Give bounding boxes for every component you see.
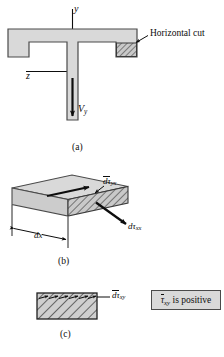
dtau-yx-label: dτyx <box>103 177 116 187</box>
dtau-xy-symbol: dτ <box>112 291 120 300</box>
caption-a: (a) <box>72 143 83 153</box>
shear-force-subscript: y <box>84 108 87 116</box>
dtau-xy-label: dτxy <box>112 291 125 301</box>
dtau-xx-label: dτxx <box>128 222 141 232</box>
figure-shear-flow-diagram: y z Vy Horizontal cut (a) dτyx dτxx dx (… <box>0 0 224 357</box>
dtau-xx-symbol: dτ <box>128 221 136 231</box>
positive-convention-phrase: is positive <box>170 295 211 305</box>
dtau-xx-subscript: xx <box>136 224 142 231</box>
dtau-xy-subscript: xy <box>120 293 126 300</box>
horizontal-cut-hatch <box>117 43 137 57</box>
panel-c-face <box>37 293 110 319</box>
shear-force-label: Vy <box>78 104 87 116</box>
dtau-yx-subscript: yx <box>111 179 117 186</box>
horizontal-cut-leader <box>136 36 148 43</box>
caption-b: (b) <box>58 257 69 267</box>
positive-convention-text: τxy is positive <box>161 295 212 306</box>
positive-convention-note: τxy is positive <box>151 290 221 310</box>
z-axis-label: z <box>26 71 30 81</box>
dx-arrow-right <box>42 235 66 240</box>
dx-label: dx <box>34 231 43 240</box>
y-axis-label: y <box>74 4 78 14</box>
horizontal-cut-label: Horizontal cut <box>150 29 205 39</box>
caption-c: (c) <box>60 330 71 340</box>
dtau-yx-symbol: dτ <box>103 177 111 186</box>
tau-xy-symbol: τ <box>161 295 164 305</box>
